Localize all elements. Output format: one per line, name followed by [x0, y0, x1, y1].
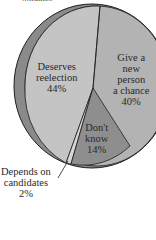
label-give-line3: person — [113, 74, 149, 85]
label-depends: Depends on candidates 2% — [1, 166, 51, 198]
label-depends-line1: Depends on — [1, 166, 51, 177]
label-deserves-line1: Deserves — [36, 61, 77, 72]
label-deserves: Deserves reelection 44% — [36, 61, 77, 94]
label-dontknow-line2: know — [85, 133, 108, 144]
label-depends-line2: candidates — [1, 177, 51, 188]
label-deserves-line2: reelection — [36, 72, 77, 83]
label-dont-know: Don't know 14% — [85, 122, 108, 155]
label-give-line1: Give a — [113, 52, 149, 63]
label-give-chance: Give a new person a chance 40% — [113, 52, 149, 107]
label-depends-pct: 2% — [1, 188, 51, 198]
label-dontknow-pct: 14% — [85, 144, 108, 155]
label-dontknow-line1: Don't — [85, 122, 108, 133]
label-give-line4: a chance — [113, 85, 149, 96]
label-give-line2: new — [113, 63, 149, 74]
depends-leader-line — [58, 161, 68, 178]
label-deserves-pct: 44% — [36, 83, 77, 94]
label-give-pct: 40% — [113, 96, 149, 107]
